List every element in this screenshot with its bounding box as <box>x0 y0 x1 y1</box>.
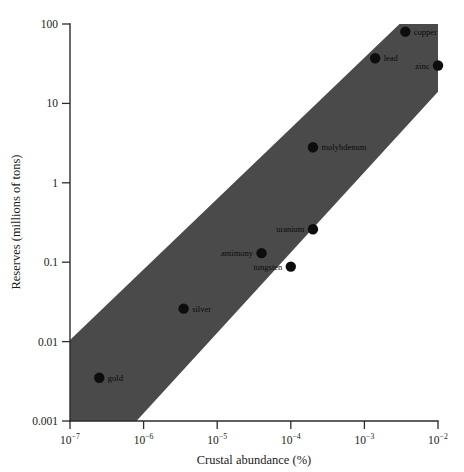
data-point-molybdenum: molybdenum <box>308 142 367 152</box>
y-tick-label: 0.1 <box>44 256 59 268</box>
data-point-silver: silver <box>178 303 211 313</box>
data-point-lead: lead <box>370 53 399 63</box>
point-marker <box>370 53 380 63</box>
point-marker <box>308 142 318 152</box>
point-marker <box>94 373 104 383</box>
x-tick-label: 10−6 <box>134 432 154 446</box>
x-tick-label: 10−2 <box>428 432 448 446</box>
trend-band-shape <box>70 24 438 421</box>
point-label: copper <box>414 27 437 37</box>
y-tick-label: 1 <box>52 177 58 189</box>
y-tick-label: 100 <box>41 18 59 30</box>
x-axis-tick-labels: 10−710−610−510−410−310−2 <box>60 432 448 446</box>
x-tick-label: 10−7 <box>60 432 80 446</box>
y-axis-title: Reserves (millions of tons) <box>9 154 23 289</box>
data-point-gold: gold <box>94 373 124 383</box>
x-tick-label: 10−4 <box>281 432 301 446</box>
point-label: antimony <box>221 248 254 258</box>
y-axis-tick-labels: 1001010.10.010.001 <box>32 18 58 427</box>
x-axis-ticks <box>70 421 438 429</box>
point-marker <box>433 60 443 70</box>
point-marker <box>308 224 318 234</box>
chart-canvas: goldsilverantimonytungstenuraniummolybde… <box>0 0 464 472</box>
point-marker <box>400 26 410 36</box>
y-tick-label: 0.001 <box>32 415 58 427</box>
y-axis-ticks <box>62 24 70 421</box>
point-label: uranium <box>276 224 305 234</box>
data-point-copper: copper <box>400 26 437 36</box>
point-label: molybdenum <box>321 142 366 152</box>
point-label: silver <box>192 304 211 314</box>
x-tick-label: 10−3 <box>355 432 375 446</box>
point-marker <box>286 261 296 271</box>
point-label: tungsten <box>253 262 283 272</box>
x-axis-title: Crustal abundance (%) <box>197 453 312 467</box>
point-label: lead <box>384 53 399 63</box>
point-marker <box>178 303 188 313</box>
y-tick-label: 10 <box>47 97 59 109</box>
x-tick-label: 10−5 <box>207 432 227 446</box>
data-point-antimony: antimony <box>221 248 267 258</box>
point-marker <box>256 248 266 258</box>
data-point-tungsten: tungsten <box>253 261 296 271</box>
point-label: gold <box>108 373 124 383</box>
shaded-trend-band <box>70 24 438 421</box>
point-label: zinc <box>415 61 429 71</box>
data-point-uranium: uranium <box>276 224 318 234</box>
scatter-chart-figure: goldsilverantimonytungstenuraniummolybde… <box>0 0 464 472</box>
data-point-zinc: zinc <box>415 60 443 70</box>
y-tick-label: 0.01 <box>38 336 58 348</box>
